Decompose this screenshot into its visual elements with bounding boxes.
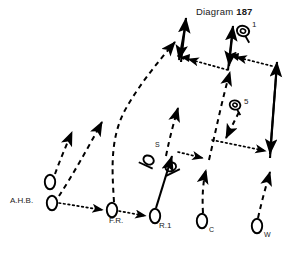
pass-c-to-w [212,140,266,151]
opponent-label-s: S [155,141,160,148]
ball-marker-1-inner [240,28,246,34]
pass-paths-dotted [59,56,272,216]
drive-path-far-right-down [270,64,277,154]
run-path-ahb [59,122,102,196]
ball-marker-5-outer [228,99,241,111]
run-path-c-upper [209,72,230,160]
player-marker-w [252,219,262,233]
run-path-ahb-upper [55,132,72,174]
run-path-s-up [166,108,178,156]
player-marker-c [197,214,207,228]
run-path-c [203,170,206,213]
diagram-title-prefix: Diagram [196,6,233,17]
player-label-w: W [264,231,271,238]
diagram-title: Diagram 187 [196,6,253,17]
pass-head-right-top [230,53,239,61]
run-path-w [258,172,270,218]
ball-label-5: 5 [244,97,248,106]
drive-path-r1 [156,156,172,208]
run-path-ball-1-drop [226,112,239,138]
ball-label-1: 1 [252,20,256,29]
play-diagram-svg [0,0,294,254]
player-marker-ahb [47,196,57,210]
player-marker-ahb-upper [45,175,55,189]
pass-top-right-to-center [188,59,228,70]
pass-ahb-to-fr [59,203,103,210]
ball-marker-5-inner [232,103,237,108]
player-label-ahb: A.H.B. [10,196,33,205]
pass-s-to-c [178,152,203,158]
opponent-markers [139,153,180,176]
player-label-r1: R.1 [159,221,171,230]
run-paths-dashed [55,42,270,218]
pass-farright-to-right [236,57,272,66]
diagram-title-number: 187 [236,6,252,17]
player-markers [45,175,262,233]
player-label-fr: F.R. [109,216,123,225]
diagram-canvas: Diagram 187 A.H.B. F.R. R.1 C W S 1 5 [0,0,294,254]
drive-paths-solid [156,18,277,208]
player-label-c: C [209,226,214,233]
